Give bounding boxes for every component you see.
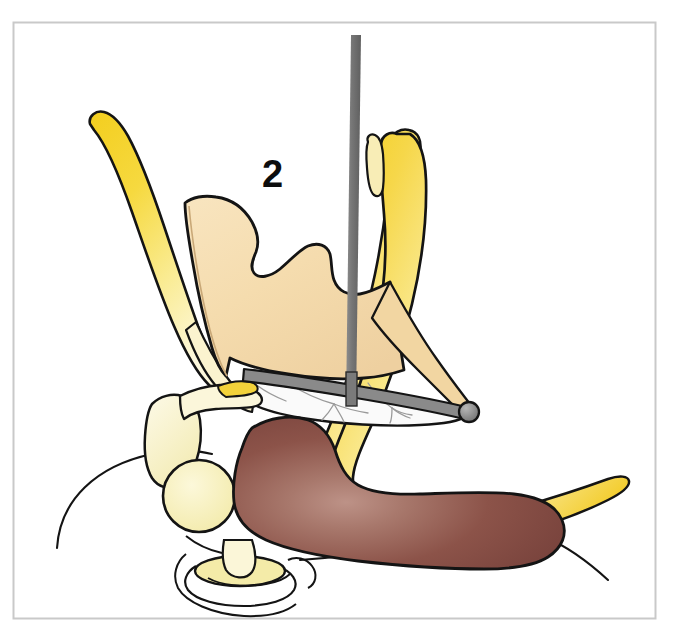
vessel-cross-section — [163, 460, 235, 532]
illustration-canvas: 2 — [0, 0, 682, 639]
probe-ball-tip — [459, 402, 479, 422]
callout-label-2: 2 — [262, 155, 283, 193]
ostium-inner-stalk — [223, 540, 256, 577]
probe-shaft-lower-segment — [346, 372, 357, 406]
wedge-yellow-bridge — [218, 381, 258, 397]
accessory-bony-spur — [366, 134, 383, 196]
anatomical-figure — [0, 0, 682, 639]
